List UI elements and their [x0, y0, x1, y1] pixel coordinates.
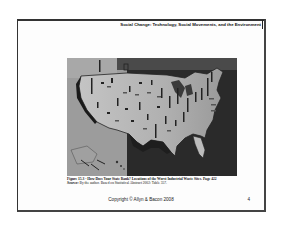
copyright-text: Copyright © Allyn & Bacon 2008	[18, 197, 264, 202]
slide-header-title: Social Change: Technology, Social Moveme…	[120, 22, 261, 27]
map-graphic	[67, 58, 237, 176]
caption-source-line: Source: By the author. Based on Statisti…	[67, 181, 247, 185]
page-number: 4	[247, 197, 250, 202]
header-rule	[18, 20, 264, 21]
presentation-slide: Social Change: Technology, Social Moveme…	[17, 19, 266, 212]
source-text: By the author. Based on Statistical Abst…	[80, 181, 167, 185]
figure-caption: Figure 15.3 - How Does Your State Rank? …	[67, 177, 247, 186]
us-waste-sites-map	[67, 58, 237, 176]
header-tick	[262, 20, 263, 29]
caption-title: Figure 15.3 - How Does Your State Rank? …	[67, 177, 202, 181]
caption-page: Page 422	[203, 177, 217, 181]
source-label: Source:	[67, 181, 79, 185]
